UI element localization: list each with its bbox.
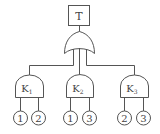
basic-event-label: 3 <box>140 113 146 124</box>
top-event-label: T <box>75 10 83 23</box>
basic-event-label: 2 <box>35 113 41 124</box>
and-gate-k1: K1 1 2 <box>14 75 46 125</box>
basic-event-label: 3 <box>86 113 92 124</box>
basic-event-label: 2 <box>121 113 127 124</box>
top-event: T <box>69 6 90 26</box>
fault-tree-diagram: T K1 1 2 K2 1 3 K3 <box>0 0 160 134</box>
and-gate-k2: K2 1 3 <box>64 75 97 125</box>
basic-event-label: 1 <box>67 113 73 124</box>
and-gate-k3: K3 2 3 <box>118 75 151 125</box>
basic-event-label: 1 <box>17 113 23 124</box>
